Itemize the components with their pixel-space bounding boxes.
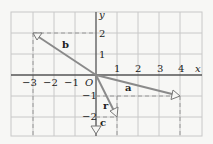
- x-tick: 3: [157, 63, 163, 74]
- x-tick: 4: [178, 63, 184, 74]
- arrowhead-r-icon: [110, 107, 118, 117]
- x-tick: −2: [43, 77, 58, 88]
- y-tick: 1: [99, 49, 105, 60]
- vector-a: [96, 75, 174, 95]
- y-tick: −2: [82, 111, 97, 122]
- y-tick: −1: [82, 90, 97, 101]
- vector-c-label: c: [100, 117, 106, 128]
- x-tick: −3: [22, 77, 37, 88]
- y-tick: 2: [99, 28, 105, 39]
- x-tick: 2: [135, 63, 141, 74]
- vector-a-label: a: [125, 82, 132, 93]
- x-tick: −1: [64, 77, 79, 88]
- y-axis-label: y: [98, 9, 105, 20]
- x-tick: 1: [114, 63, 120, 74]
- vector-diagram: y x O −3 −2 −1 1 2 3 4 2 1 −1 −2 a b c r: [0, 0, 213, 144]
- x-axis-label: x: [195, 63, 201, 74]
- origin-label: O: [85, 77, 93, 88]
- vectors: [38, 37, 174, 129]
- arrowhead-a-icon: [171, 90, 180, 100]
- vector-r-label: r: [103, 100, 109, 111]
- vector-b-label: b: [62, 39, 69, 50]
